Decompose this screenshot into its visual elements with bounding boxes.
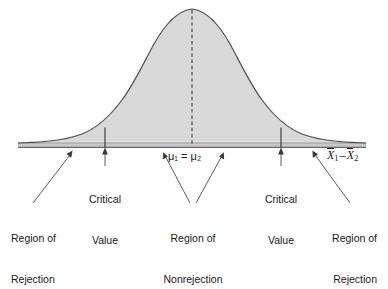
- mean-equality-label: μ₁ = μ₂: [168, 150, 201, 162]
- left-rejection-leader-line: [33, 155, 70, 203]
- x-bar-2: X: [347, 148, 354, 163]
- x-bar-2-subscript: 2: [354, 153, 358, 163]
- baseline-axis: [18, 143, 366, 147]
- nonrejection-left-leader-line: [166, 157, 190, 203]
- nonrejection-right-arrowhead: [219, 152, 224, 159]
- left-region-of-rejection-label: Region of Rejection: [11, 205, 91, 289]
- right-rejection-arrowhead: [312, 151, 318, 158]
- x-bar-1: X: [327, 148, 334, 163]
- region-of-nonrejection-line1: Region of: [143, 232, 243, 246]
- nonrejection-right-leader-line: [196, 157, 221, 203]
- right-region-of-rejection-line1: Region of: [297, 232, 377, 246]
- left-rejection-arrowhead: [66, 151, 72, 158]
- region-of-nonrejection-label: Region of Nonrejection: [143, 205, 243, 289]
- left-region-of-rejection-line2: Rejection: [11, 273, 91, 287]
- region-of-nonrejection-line2: Nonrejection: [143, 273, 243, 287]
- left-critical-arrowhead: [102, 148, 108, 155]
- x-bar-difference-axis-label: X1–X2: [327, 148, 358, 163]
- difference-minus-sign: –: [339, 148, 347, 162]
- right-region-of-rejection-label: Region of Rejection: [297, 205, 377, 289]
- right-region-of-rejection-line2: Rejection: [297, 273, 377, 287]
- right-critical-arrowhead: [278, 148, 284, 155]
- left-region-of-rejection-line1: Region of: [11, 232, 91, 246]
- x-bar-1-subscript: 1: [334, 153, 338, 163]
